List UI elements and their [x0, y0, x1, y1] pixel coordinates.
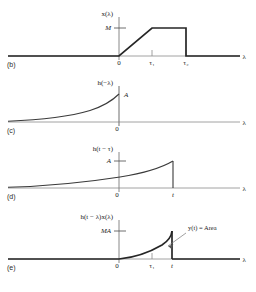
panel-letter-c: (c) [7, 127, 15, 134]
panel-c-tick-0: 0 [115, 125, 119, 133]
panel-b-value-M: M [104, 24, 112, 32]
panel-b-tick-tau2: τ₂ [183, 59, 189, 67]
panel-d-tick-0: 0 [115, 191, 119, 199]
panel-b-tick-0: 0 [117, 59, 121, 67]
panel-e-x-label: λ [243, 256, 247, 264]
panel-d-value-A: A [106, 157, 112, 165]
panel-d-x-label: λ [243, 185, 247, 193]
panel-letter-b: (b) [7, 61, 16, 68]
panel-c-value-A: A [123, 91, 129, 99]
panel-d-plot: h(t − τ) A 0 t λ [0, 136, 256, 202]
panel-d-y-label: h(t − τ) [93, 145, 114, 153]
panel-c-plot: h(−λ) A 0 λ [0, 70, 256, 136]
panel-b-tick-tau1: τ₁ [149, 59, 154, 67]
signal-curve [119, 231, 172, 259]
panel-e-plot: h(t − λ)x(λ) MA 0 τ₁ t y(t) = Area λ [0, 202, 256, 278]
signal-curve [8, 94, 119, 121]
panel-c: h(−λ) A 0 λ (c) [0, 70, 256, 136]
panel-e-tick-0: 0 [115, 262, 119, 270]
panel-letter-d: (d) [7, 193, 16, 200]
panel-b-y-label: x(λ) [101, 10, 113, 18]
panel-e-tick-t: t [171, 262, 174, 270]
panel-e: h(t − λ)x(λ) MA 0 τ₁ t y(t) = Area λ (e) [0, 202, 256, 278]
panel-b: x(λ) M 0 τ₁ τ₂ λ (b) [0, 4, 256, 70]
panel-b-x-label: λ [243, 53, 247, 61]
panel-c-y-label: h(−λ) [97, 79, 113, 87]
panel-e-tick-tau1: τ₁ [149, 262, 154, 270]
panel-e-value-MA: MA [100, 227, 112, 235]
signal-curve [8, 161, 173, 187]
panel-e-y-label: h(t − λ)x(λ) [80, 213, 113, 221]
panel-d-tick-t: t [172, 191, 175, 199]
panel-letter-e: (e) [7, 264, 16, 271]
panel-c-x-label: λ [243, 119, 247, 127]
convolution-figure: x(λ) M 0 τ₁ τ₂ λ (b) h(−λ) A 0 λ (c) [0, 0, 256, 292]
signal-curve [8, 28, 240, 56]
panel-e-annotation: y(t) = Area [188, 224, 217, 232]
panel-b-plot: x(λ) M 0 τ₁ τ₂ λ [0, 4, 256, 70]
panel-d: h(t − τ) A 0 t λ (d) [0, 136, 256, 202]
